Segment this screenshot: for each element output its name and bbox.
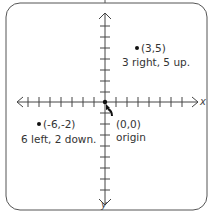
point-3-5: [135, 46, 139, 50]
point-label-3-5: (3,5): [141, 42, 166, 54]
origin-label: origin: [116, 131, 146, 143]
origin-arrow-icon: [106, 104, 112, 116]
point-desc-3-5: 3 right, 5 up.: [122, 56, 190, 68]
point-neg6-neg2: [37, 122, 41, 126]
coordinate-plane: [0, 0, 213, 212]
origin-coord: (0,0): [116, 118, 141, 130]
y-axis-label: y: [101, 199, 107, 211]
point-desc-neg6-neg2: 6 left, 2 down.: [21, 133, 96, 145]
point-label-neg6-neg2: (-6,-2): [43, 118, 75, 130]
point-origin: [103, 100, 107, 104]
x-axis-label: x: [200, 96, 206, 108]
